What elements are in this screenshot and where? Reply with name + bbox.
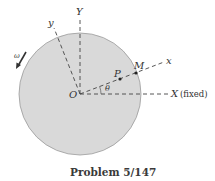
point-M: [134, 71, 137, 74]
label-y: y: [47, 17, 54, 28]
diagram-canvas: Y y x X (fixed) O P M θ ω Problem 5/147: [0, 0, 215, 181]
label-fixed: (fixed): [180, 89, 208, 99]
figure-caption: Problem 5/147: [70, 166, 156, 178]
label-omega: ω: [14, 52, 20, 60]
label-P: P: [113, 68, 121, 79]
label-Y: Y: [76, 6, 84, 17]
label-theta: θ: [105, 84, 110, 93]
label-x: x: [166, 55, 172, 66]
label-X: X: [170, 88, 179, 99]
label-M: M: [133, 60, 145, 71]
label-O: O: [69, 89, 77, 100]
